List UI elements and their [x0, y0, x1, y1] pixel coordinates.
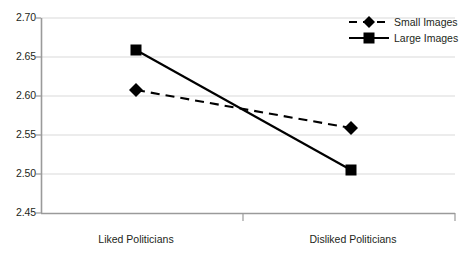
legend-label: Small Images	[390, 16, 458, 28]
x-tick-label-liked-politicians: Liked Politicians	[76, 233, 196, 245]
y-tick-label: 2.50	[2, 168, 36, 179]
data-point-marker	[346, 165, 357, 176]
y-axis-ticks	[36, 18, 41, 213]
y-tick-label: 2.55	[2, 129, 36, 140]
legend-item-small-images: Small Images	[348, 14, 460, 30]
y-tick-label: 2.60	[2, 90, 36, 101]
line-chart: 2.70 2.65 2.60 2.55 2.50 2.45 Liked Poli…	[0, 0, 464, 256]
series-small-images	[129, 83, 358, 135]
legend: Small Images Large Images	[348, 14, 460, 46]
data-point-marker	[129, 83, 143, 97]
y-tick-label: 2.45	[2, 207, 36, 218]
y-tick-label: 2.70	[2, 12, 36, 23]
data-point-marker	[131, 45, 142, 56]
legend-label: Large Images	[390, 32, 458, 44]
data-point-marker	[344, 121, 358, 135]
y-axis-tick-labels: 2.70 2.65 2.60 2.55 2.50 2.45	[0, 0, 36, 256]
legend-item-large-images: Large Images	[348, 30, 460, 46]
legend-key-large-images	[348, 31, 390, 45]
y-tick-label: 2.65	[2, 51, 36, 62]
x-tick-label-disliked-politicians: Disliked Politicians	[288, 233, 418, 245]
legend-key-small-images	[348, 15, 390, 29]
